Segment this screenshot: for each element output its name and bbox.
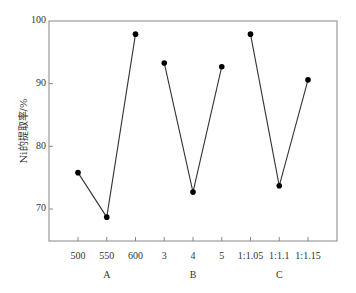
chart: 708090100 500550600A345B1:1.051:1.11:1.1… bbox=[0, 0, 356, 293]
data-point-C bbox=[305, 77, 311, 83]
data-point-A bbox=[104, 214, 110, 220]
series-line-B bbox=[164, 63, 222, 192]
x-tick-label: 1:1.15 bbox=[295, 250, 320, 261]
data-point-B bbox=[219, 64, 225, 70]
x-tick-label: 600 bbox=[128, 250, 143, 261]
y-tick-label: 90 bbox=[36, 77, 46, 88]
x-tick-label: 4 bbox=[191, 250, 196, 261]
y-axis: 708090100 bbox=[31, 14, 53, 213]
y-tick-label: 100 bbox=[31, 14, 46, 25]
series-line-C bbox=[251, 34, 309, 186]
x-tick-label: 550 bbox=[99, 250, 114, 261]
y-axis-label: Ni的提取率/% bbox=[17, 99, 29, 164]
data-point-B bbox=[161, 60, 167, 66]
data-point-A bbox=[133, 31, 139, 37]
x-axis: 500550600A345B1:1.051:1.11:1.15C bbox=[71, 237, 321, 280]
group-label-B: B bbox=[190, 269, 197, 280]
data-point-B bbox=[190, 189, 196, 195]
group-label-C: C bbox=[276, 269, 283, 280]
data-point-C bbox=[248, 31, 254, 37]
x-tick-label: 1:1.1 bbox=[269, 250, 289, 261]
group-label-A: A bbox=[103, 269, 111, 280]
y-tick-label: 80 bbox=[36, 140, 46, 151]
x-tick-label: 5 bbox=[219, 250, 224, 261]
data-point-A bbox=[75, 170, 81, 176]
data-point-C bbox=[276, 183, 282, 189]
series-line-A bbox=[78, 34, 136, 217]
x-tick-label: 3 bbox=[162, 250, 167, 261]
x-tick-label: 1:1.05 bbox=[238, 250, 263, 261]
x-tick-label: 500 bbox=[71, 250, 86, 261]
y-tick-label: 70 bbox=[36, 202, 46, 213]
